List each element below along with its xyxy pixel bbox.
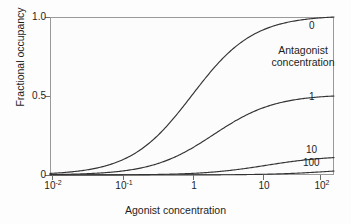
- x-tick-label-1e2: 102: [314, 180, 329, 191]
- x-tick-label-1: 1: [191, 180, 197, 191]
- legend-title: Antagonist concentration: [258, 44, 348, 68]
- curve-label-100: 100: [303, 157, 320, 168]
- x-tick-exponent: -2: [55, 179, 61, 186]
- curve-label-1: 1: [309, 91, 315, 102]
- x-tick-mantissa: 10: [258, 180, 269, 191]
- legend-title-line1: Antagonist: [258, 44, 348, 56]
- y-axis-title: Fractional occupancy: [14, 0, 26, 122]
- x-tick-label-10: 10: [258, 180, 269, 191]
- x-tick-exponent: 2: [326, 179, 330, 186]
- figure-canvas: 1.0 0.5 0 Fractional occupancy 10-2 10-1…: [0, 0, 351, 224]
- y-tick-label-0: 0: [40, 169, 46, 180]
- curve-0: [50, 17, 334, 173]
- x-tick-mantissa: 10: [314, 180, 325, 191]
- x-tick-label-1e-1: 10-1: [115, 180, 132, 191]
- x-tick-label-1e-2: 10-2: [44, 180, 61, 191]
- y-tick-label-0p5: 0.5: [32, 90, 46, 101]
- curve-1: [50, 96, 334, 175]
- curve-label-0: 0: [309, 20, 315, 31]
- x-tick-mantissa: 10: [44, 180, 55, 191]
- curve-10: [50, 158, 334, 175]
- x-axis-title: Agonist concentration: [0, 204, 351, 216]
- curve-label-10: 10: [306, 144, 317, 155]
- x-tick-mantissa: 10: [115, 180, 126, 191]
- legend-title-line2: concentration: [258, 56, 348, 68]
- y-tick-label-1p0: 1.0: [32, 11, 46, 22]
- plot-curves: [50, 17, 334, 175]
- x-tick-exponent: -1: [126, 179, 132, 186]
- x-tick-mantissa: 1: [191, 180, 197, 191]
